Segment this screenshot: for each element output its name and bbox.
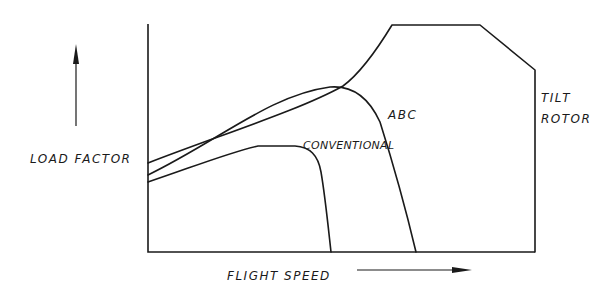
x-axis-arrow-icon xyxy=(357,267,472,273)
x-axis-label: FLIGHT SPEED xyxy=(227,269,331,283)
abc-label: ABC xyxy=(387,108,417,122)
series-conventional xyxy=(148,146,331,252)
y-axis-arrow-icon xyxy=(73,44,79,126)
y-axis-label: LOAD FACTOR xyxy=(30,152,131,166)
conventional-label: CONVENTIONAL xyxy=(303,139,394,152)
series-abc xyxy=(148,87,416,252)
tilt-rotor-label-line1: TILT xyxy=(541,91,571,105)
chart-axes xyxy=(148,24,535,252)
flight-envelope-chart: LOAD FACTOR FLIGHT SPEED TILT ROTOR ABC … xyxy=(0,0,611,295)
tilt-rotor-label-line2: ROTOR xyxy=(541,112,591,126)
